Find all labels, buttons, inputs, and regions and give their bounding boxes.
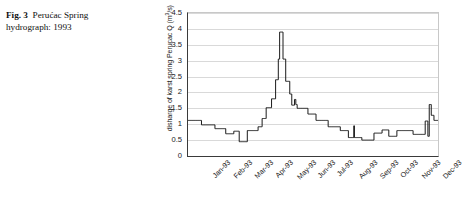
y-axis-tick-label: 3.5: [158, 39, 182, 48]
figure-number: Fig. 3: [6, 10, 28, 20]
x-axis-tick-label: Oct-93: [398, 158, 420, 180]
y-axis-tick-label: 1.5: [158, 103, 182, 112]
x-axis-tick-label: Feb-93: [232, 158, 254, 180]
y-axis-tick-label: 0: [158, 151, 182, 160]
y-axis-tick-label: 4: [158, 23, 182, 32]
plot-area: [187, 12, 439, 157]
x-axis-tick-label: Nov-93: [420, 158, 443, 181]
x-axis-tick-label: Jun-93: [315, 158, 337, 180]
x-axis-tick-labels: Jan-93Feb-93Mar-93Apr-93May-93Jun-93Jul-…: [187, 158, 439, 208]
x-axis-tick-label: Apr-93: [273, 158, 295, 180]
y-axis-tick-labels: 4.543.532.521.510.50: [158, 12, 182, 155]
hydrograph-chart: disharge of karst spring Perucac Q (m3/s…: [140, 0, 453, 210]
y-axis-tick-label: 2.5: [158, 71, 182, 80]
y-axis-tick-label: 2: [158, 87, 182, 96]
y-axis-tick-label: 3: [158, 55, 182, 64]
discharge-polyline: [188, 32, 438, 142]
x-axis-tick-label: Jul-93: [335, 158, 355, 178]
x-axis-tick-label: Aug-93: [357, 158, 380, 181]
y-axis-tick-label: 0.5: [158, 135, 182, 144]
y-axis-tick-label: 1: [158, 119, 182, 128]
x-axis-tick-label: Dec-93: [440, 158, 463, 181]
figure-caption: Fig. 3 Perućac Spring hydrograph: 1993: [6, 9, 132, 33]
y-axis-tick-label: 4.5: [158, 8, 182, 17]
discharge-series: [188, 13, 438, 156]
x-axis-tick-label: May-93: [295, 158, 318, 181]
x-axis-tick-label: Jan-93: [211, 158, 233, 180]
x-axis-tick-label: Mar-93: [253, 158, 275, 180]
x-axis-tick-label: Sep-93: [378, 158, 401, 181]
